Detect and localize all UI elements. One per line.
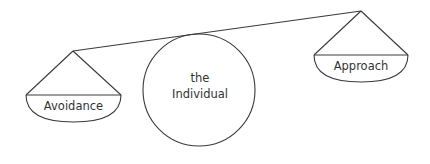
fulcrum-label-line1: the [191,71,210,85]
right-pan-string-right [361,11,408,55]
balance-beam [73,11,361,51]
right-pan-string-left [314,11,361,55]
left-pan-label: Avoidance [44,99,103,113]
diagram-canvas: Avoidance Approach the Individual [0,0,430,164]
left-pan-string-left [26,51,73,95]
fulcrum: the Individual [143,34,255,146]
fulcrum-label-line2: Individual [172,87,228,101]
balance-diagram: Avoidance Approach the Individual [0,0,430,164]
left-pan-string-right [73,51,121,95]
left-pan: Avoidance [26,51,121,122]
right-pan-label: Approach [334,59,389,73]
right-pan: Approach [314,11,408,82]
